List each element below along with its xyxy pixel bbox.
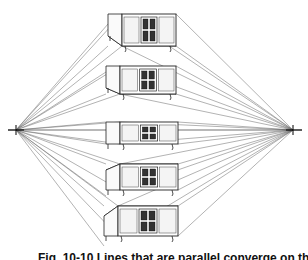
cabinet bbox=[106, 66, 176, 100]
figure-caption: Fig. 10-10 Lines that are parallel conve… bbox=[38, 251, 308, 260]
cabinet bbox=[104, 206, 178, 242]
cabinet-drawings bbox=[104, 14, 178, 242]
cabinet bbox=[106, 164, 178, 196]
perspective-diagram bbox=[0, 0, 308, 260]
cabinet bbox=[108, 14, 176, 52]
cabinet bbox=[106, 122, 178, 150]
